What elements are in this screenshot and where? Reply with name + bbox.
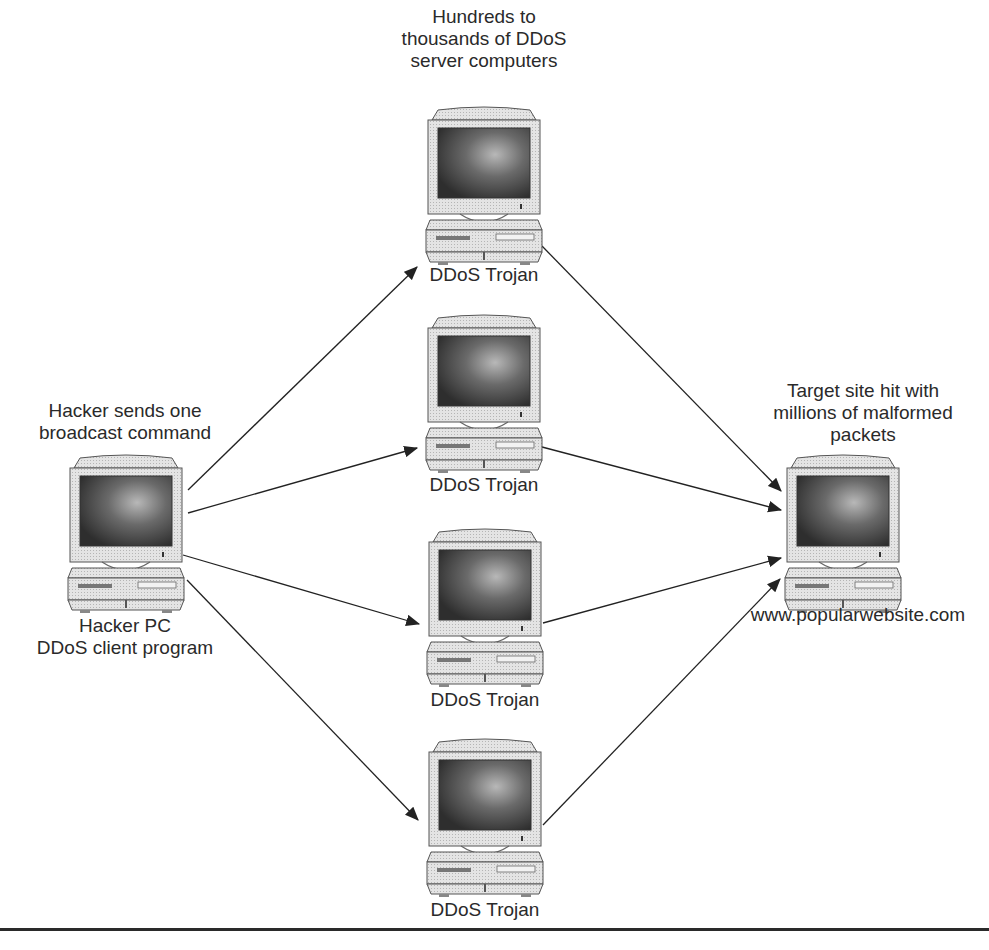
caption-line: DDoS client program bbox=[0, 637, 250, 659]
caption-line: Hundreds to bbox=[384, 6, 584, 28]
edge-hacker-trojan3 bbox=[183, 555, 419, 624]
caption-line: server computers bbox=[384, 50, 584, 72]
hacker-caption-below: Hacker PC DDoS client program bbox=[0, 615, 250, 659]
trojan-computer-icon-4 bbox=[427, 739, 543, 897]
target-url-caption: www.popularwebsite.com bbox=[728, 604, 988, 626]
caption-line: thousands of DDoS bbox=[384, 28, 584, 50]
caption-line: packets bbox=[738, 424, 988, 446]
caption-line: Hacker sends one bbox=[0, 400, 250, 422]
trojan-computer-icon-3 bbox=[427, 529, 543, 687]
trojan4-caption: DDoS Trojan bbox=[385, 899, 585, 921]
ddos-diagram: Hacker sends one broadcast command Hacke… bbox=[0, 0, 989, 950]
trojan-group-caption: Hundreds to thousands of DDoS server com… bbox=[384, 6, 584, 72]
trojan-computer-icon-2 bbox=[426, 315, 542, 473]
trojan1-caption: DDoS Trojan bbox=[384, 264, 584, 286]
caption-line: millions of malformed bbox=[738, 402, 988, 424]
trojan2-caption: DDoS Trojan bbox=[384, 474, 584, 496]
bottom-rule bbox=[0, 928, 989, 931]
target-caption-above: Target site hit with millions of malform… bbox=[738, 380, 988, 446]
hacker-caption-above: Hacker sends one broadcast command bbox=[0, 400, 250, 444]
caption-line: Hacker PC bbox=[0, 615, 250, 637]
edge-hacker-trojan1 bbox=[188, 267, 417, 490]
caption-line: Target site hit with bbox=[738, 380, 988, 402]
caption-line: broadcast command bbox=[0, 422, 250, 444]
target-server-icon bbox=[785, 455, 901, 613]
edge-hacker-trojan2 bbox=[188, 448, 417, 513]
trojan3-caption: DDoS Trojan bbox=[385, 689, 585, 711]
trojan-computer-icon-1 bbox=[426, 107, 542, 265]
hacker-pc-icon bbox=[68, 455, 184, 613]
